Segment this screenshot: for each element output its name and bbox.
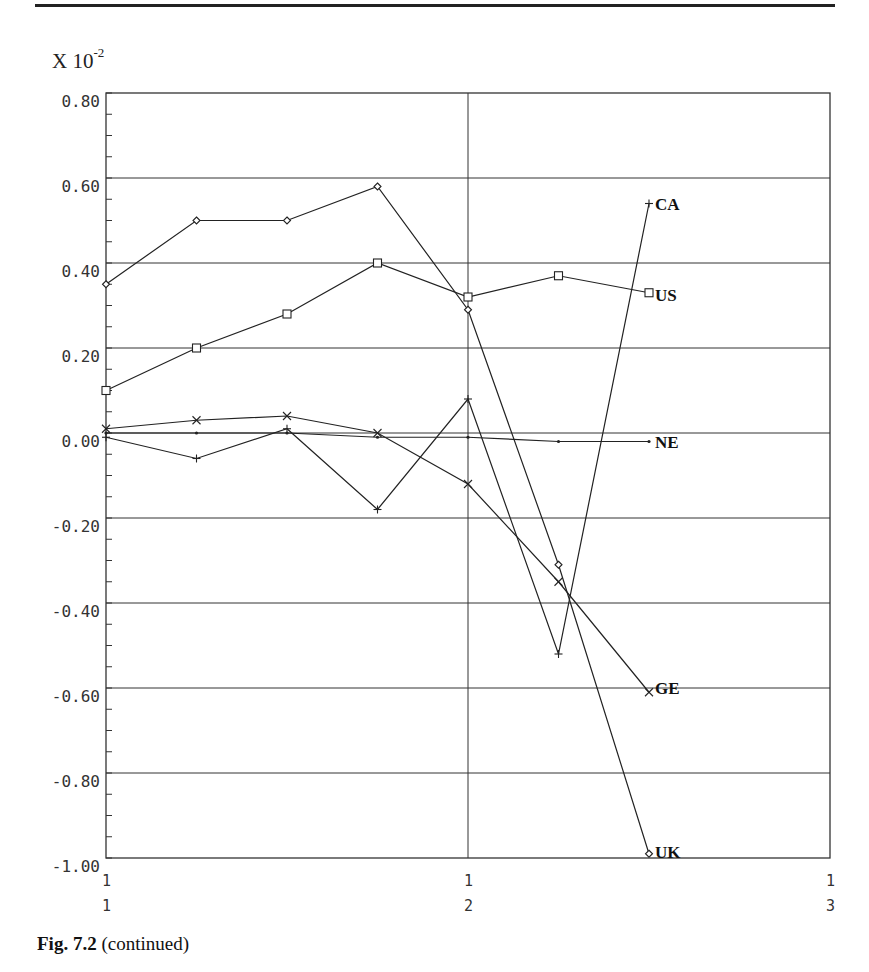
dot-marker-icon — [285, 431, 288, 434]
plus-marker-icon — [555, 650, 563, 658]
y-tick-label: 0.20 — [61, 347, 100, 366]
diamond-marker-icon — [646, 850, 653, 857]
y-tick-label: -1.00 — [52, 857, 100, 876]
dot-marker-icon — [557, 440, 560, 443]
square-marker-icon — [645, 289, 653, 297]
series-line-uk — [106, 187, 649, 854]
series-label-ne: NE — [655, 433, 679, 452]
series-label-us: US — [655, 286, 677, 305]
dot-marker-icon — [466, 436, 469, 439]
series-line-ge — [106, 416, 649, 692]
series-line-ca — [106, 204, 649, 655]
diamond-marker-icon — [284, 217, 291, 224]
plus-marker-icon — [645, 200, 653, 208]
square-marker-icon — [374, 259, 382, 267]
square-marker-icon — [555, 272, 563, 280]
series-label-ge: GE — [655, 679, 680, 698]
dot-marker-icon — [376, 436, 379, 439]
square-marker-icon — [193, 344, 201, 352]
y-tick-label: 0.80 — [61, 92, 100, 111]
x-tick-label-bottom: 1 — [102, 897, 111, 915]
y-tick-label: -0.40 — [52, 602, 100, 621]
figure-caption: Fig. 7.2 (continued) — [37, 933, 189, 955]
x-tick-label-top: 1 — [102, 872, 111, 890]
dot-marker-icon — [647, 440, 650, 443]
series-label-ca: CA — [655, 195, 680, 214]
y-tick-label: -0.80 — [52, 772, 100, 791]
diamond-marker-icon — [555, 561, 562, 568]
square-marker-icon — [464, 293, 472, 301]
y-tick-label: -0.20 — [52, 517, 100, 536]
dot-marker-icon — [195, 431, 198, 434]
caption-number: Fig. 7.2 — [37, 933, 97, 954]
x-tick-label-bottom: 3 — [826, 897, 835, 915]
y-tick-label: 0.00 — [61, 432, 100, 451]
line-chart: 0.800.600.400.200.00-0.20-0.40-0.60-0.80… — [0, 0, 869, 972]
dot-marker-icon — [104, 431, 107, 434]
series-label-uk: UK — [655, 843, 681, 862]
x-tick-label-top: 1 — [464, 872, 473, 890]
plus-marker-icon — [193, 455, 201, 463]
x-tick-label-bottom: 2 — [464, 897, 473, 915]
x-marker-icon — [555, 578, 563, 586]
caption-text: (continued) — [97, 933, 189, 954]
x-marker-icon — [645, 688, 653, 696]
y-tick-label: 0.60 — [61, 177, 100, 196]
square-marker-icon — [102, 387, 110, 395]
x-tick-label-top: 1 — [826, 872, 835, 890]
y-tick-label: 0.40 — [61, 262, 100, 281]
series-line-us — [106, 263, 649, 391]
y-tick-label: -0.60 — [52, 687, 100, 706]
square-marker-icon — [283, 310, 291, 318]
